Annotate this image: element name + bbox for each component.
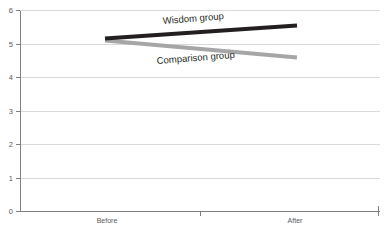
y-tick-label-3: 3 xyxy=(9,107,13,116)
line-chart: 6 5 4 3 2 1 0 Before After Wisdom group … xyxy=(0,0,389,234)
x-tick-label-after: After xyxy=(288,217,303,224)
y-tick-label-0: 0 xyxy=(9,207,13,216)
y-tick-label-1: 1 xyxy=(9,174,13,183)
y-tick-label-6: 6 xyxy=(9,6,13,15)
chart-background xyxy=(0,0,389,234)
y-tick-label-4: 4 xyxy=(9,73,13,82)
x-tick-label-before: Before xyxy=(97,217,118,224)
y-tick-label-2: 2 xyxy=(9,140,13,149)
chart-canvas: 6 5 4 3 2 1 0 Before After Wisdom group … xyxy=(0,0,389,234)
y-tick-label-5: 5 xyxy=(9,40,13,49)
